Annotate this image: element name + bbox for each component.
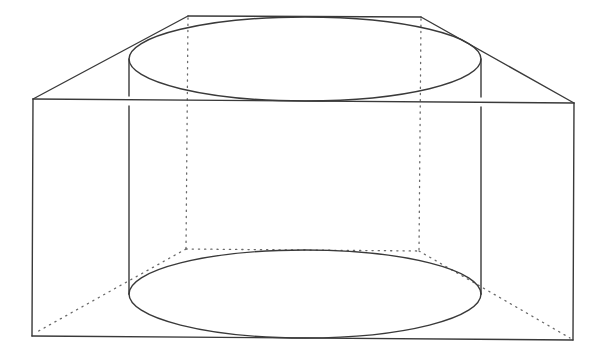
cylinder-bottom-front-arc [129, 294, 481, 338]
cylinder-bottom-back-arc [129, 250, 481, 294]
left-top-edge [33, 16, 188, 99]
cylinder-top-ellipse [129, 17, 481, 101]
hidden-edges [35, 18, 570, 338]
cylinder-in-prism-diagram [0, 0, 608, 360]
right-bottom-edge [419, 251, 570, 338]
front-left-vertical-edge [32, 99, 33, 336]
back-left-vertical-edge [186, 18, 188, 249]
right-top-edge [421, 17, 574, 103]
back-right-vertical-edge [419, 19, 421, 251]
prism-edges [32, 16, 574, 340]
cylinder [129, 17, 481, 338]
front-right-vertical-edge [573, 103, 574, 340]
